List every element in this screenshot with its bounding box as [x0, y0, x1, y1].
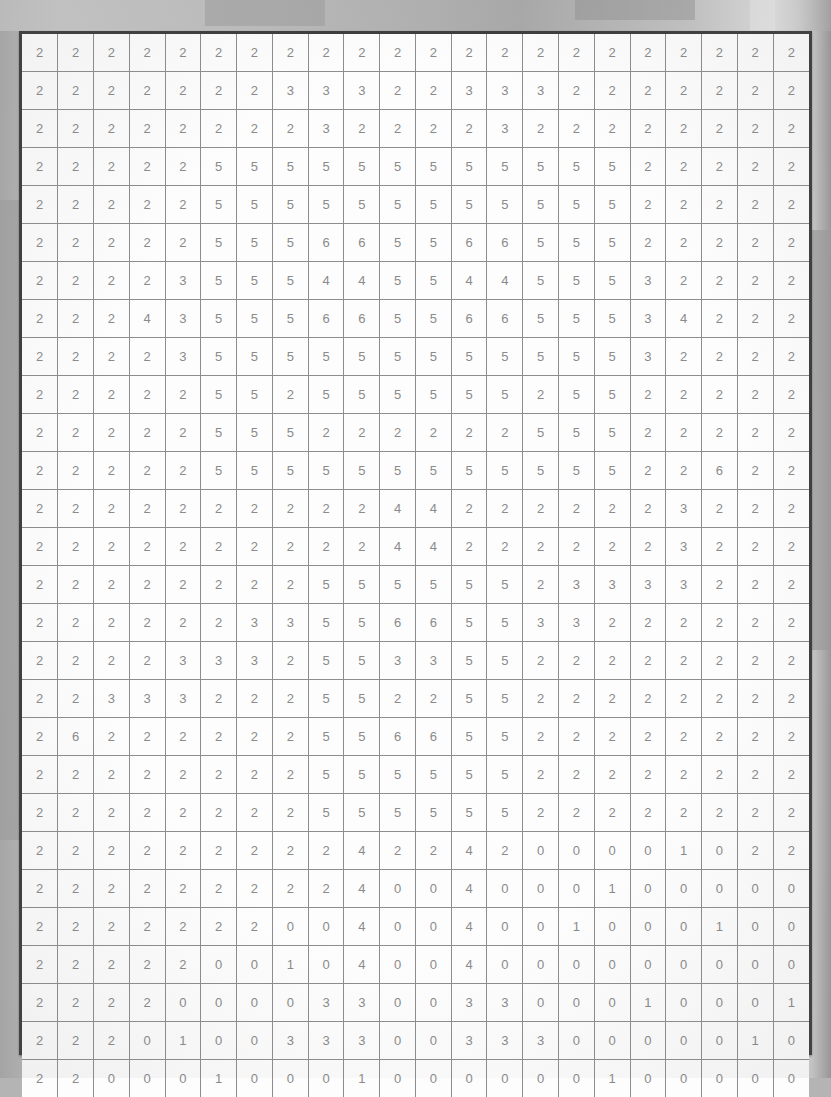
grid-cell[interactable]: 0 — [237, 1022, 273, 1060]
grid-cell[interactable]: 5 — [558, 300, 594, 338]
grid-cell[interactable]: 1 — [666, 832, 702, 870]
grid-cell[interactable]: 2 — [594, 34, 630, 72]
grid-cell[interactable]: 2 — [94, 718, 130, 756]
grid-cell[interactable]: 2 — [237, 718, 273, 756]
grid-cell[interactable]: 5 — [415, 756, 451, 794]
grid-cell[interactable]: 2 — [487, 34, 523, 72]
grid-cell[interactable]: 5 — [344, 452, 380, 490]
grid-cell[interactable]: 2 — [737, 224, 773, 262]
grid-cell[interactable]: 2 — [737, 794, 773, 832]
grid-cell[interactable]: 2 — [22, 300, 58, 338]
grid-cell[interactable]: 2 — [201, 756, 237, 794]
grid-cell[interactable]: 2 — [702, 148, 738, 186]
grid-cell[interactable]: 2 — [237, 34, 273, 72]
grid-cell[interactable]: 2 — [630, 490, 666, 528]
grid-cell[interactable]: 2 — [558, 528, 594, 566]
grid-cell[interactable]: 5 — [523, 300, 559, 338]
grid-cell[interactable]: 2 — [58, 566, 94, 604]
grid-cell[interactable]: 2 — [702, 490, 738, 528]
grid-cell[interactable]: 2 — [22, 642, 58, 680]
grid-cell[interactable]: 0 — [773, 1022, 809, 1060]
grid-cell[interactable]: 2 — [94, 224, 130, 262]
grid-cell[interactable]: 2 — [666, 338, 702, 376]
grid-cell[interactable]: 2 — [558, 34, 594, 72]
grid-cell[interactable]: 0 — [201, 1022, 237, 1060]
grid-cell[interactable]: 6 — [344, 224, 380, 262]
grid-cell[interactable]: 0 — [630, 1060, 666, 1097]
grid-cell[interactable]: 0 — [737, 870, 773, 908]
grid-cell[interactable]: 0 — [737, 1060, 773, 1097]
grid-cell[interactable]: 2 — [165, 224, 201, 262]
grid-cell[interactable]: 0 — [702, 1060, 738, 1097]
grid-cell[interactable]: 2 — [22, 756, 58, 794]
grid-cell[interactable]: 2 — [558, 642, 594, 680]
grid-cell[interactable]: 2 — [702, 338, 738, 376]
grid-cell[interactable]: 2 — [415, 414, 451, 452]
grid-cell[interactable]: 2 — [773, 794, 809, 832]
grid-cell[interactable]: 3 — [344, 72, 380, 110]
grid-cell[interactable]: 2 — [487, 832, 523, 870]
grid-cell[interactable]: 2 — [272, 794, 308, 832]
grid-cell[interactable]: 6 — [451, 224, 487, 262]
grid-cell[interactable]: 6 — [380, 604, 416, 642]
grid-cell[interactable]: 5 — [558, 262, 594, 300]
grid-cell[interactable]: 2 — [737, 680, 773, 718]
grid-cell[interactable]: 2 — [773, 756, 809, 794]
grid-cell[interactable]: 4 — [451, 908, 487, 946]
grid-cell[interactable]: 0 — [415, 984, 451, 1022]
grid-cell[interactable]: 2 — [129, 186, 165, 224]
grid-cell[interactable]: 2 — [22, 984, 58, 1022]
grid-cell[interactable]: 5 — [344, 794, 380, 832]
grid-cell[interactable]: 5 — [487, 338, 523, 376]
grid-cell[interactable]: 0 — [702, 1022, 738, 1060]
grid-cell[interactable]: 2 — [94, 756, 130, 794]
grid-cell[interactable]: 2 — [94, 300, 130, 338]
grid-cell[interactable]: 2 — [58, 680, 94, 718]
grid-cell[interactable]: 1 — [702, 908, 738, 946]
grid-cell[interactable]: 6 — [344, 300, 380, 338]
grid-cell[interactable]: 2 — [702, 718, 738, 756]
grid-cell[interactable]: 2 — [94, 414, 130, 452]
grid-cell[interactable]: 2 — [415, 832, 451, 870]
grid-cell[interactable]: 2 — [737, 642, 773, 680]
grid-cell[interactable]: 2 — [666, 262, 702, 300]
grid-cell[interactable]: 2 — [666, 186, 702, 224]
grid-cell[interactable]: 2 — [737, 452, 773, 490]
grid-cell[interactable]: 2 — [129, 870, 165, 908]
grid-cell[interactable]: 2 — [272, 110, 308, 148]
grid-cell[interactable]: 2 — [22, 908, 58, 946]
grid-cell[interactable]: 5 — [487, 452, 523, 490]
grid-cell[interactable]: 2 — [58, 72, 94, 110]
grid-cell[interactable]: 2 — [22, 528, 58, 566]
grid-cell[interactable]: 2 — [666, 718, 702, 756]
grid-cell[interactable]: 2 — [94, 604, 130, 642]
grid-cell[interactable]: 2 — [94, 908, 130, 946]
grid-cell[interactable]: 5 — [451, 148, 487, 186]
grid-cell[interactable]: 6 — [308, 224, 344, 262]
grid-cell[interactable]: 2 — [737, 186, 773, 224]
grid-cell[interactable]: 2 — [94, 832, 130, 870]
grid-cell[interactable]: 2 — [129, 34, 165, 72]
grid-cell[interactable]: 2 — [308, 490, 344, 528]
grid-cell[interactable]: 2 — [272, 680, 308, 718]
grid-cell[interactable]: 2 — [22, 946, 58, 984]
grid-cell[interactable]: 5 — [201, 338, 237, 376]
grid-cell[interactable]: 5 — [380, 224, 416, 262]
grid-cell[interactable]: 2 — [773, 528, 809, 566]
grid-cell[interactable]: 5 — [594, 148, 630, 186]
grid-cell[interactable]: 2 — [165, 566, 201, 604]
grid-cell[interactable]: 5 — [380, 186, 416, 224]
grid-cell[interactable]: 3 — [237, 604, 273, 642]
grid-cell[interactable]: 5 — [272, 262, 308, 300]
grid-cell[interactable]: 3 — [272, 72, 308, 110]
grid-cell[interactable]: 2 — [737, 262, 773, 300]
grid-cell[interactable]: 1 — [773, 984, 809, 1022]
grid-cell[interactable]: 2 — [201, 794, 237, 832]
grid-cell[interactable]: 2 — [201, 110, 237, 148]
grid-cell[interactable]: 2 — [666, 414, 702, 452]
grid-cell[interactable]: 2 — [94, 490, 130, 528]
grid-cell[interactable]: 5 — [558, 148, 594, 186]
grid-cell[interactable]: 2 — [737, 414, 773, 452]
grid-cell[interactable]: 3 — [630, 300, 666, 338]
grid-cell[interactable]: 0 — [666, 1022, 702, 1060]
